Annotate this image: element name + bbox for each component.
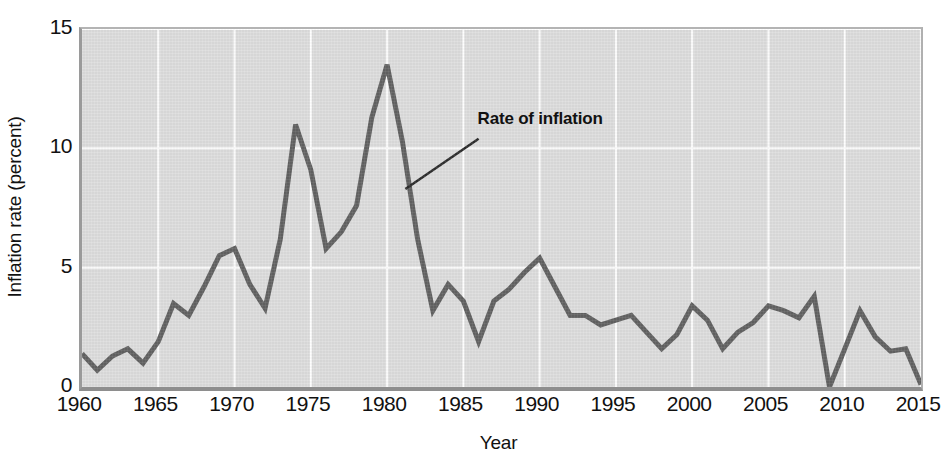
x-tick-label: 2010 — [802, 392, 882, 416]
x-tick-label: 1965 — [115, 392, 195, 416]
x-tick-label: 2015 — [878, 392, 949, 416]
plot-area — [79, 27, 923, 391]
x-axis-title: Year — [79, 432, 918, 454]
x-tick-label: 2000 — [649, 392, 729, 416]
x-tick-label: 1970 — [192, 392, 272, 416]
annotation-leader-line — [405, 139, 478, 189]
x-tick-label: 1980 — [344, 392, 424, 416]
y-tick-label: 10 — [30, 134, 72, 158]
inflation-rate-chart: 051015 Inflation rate (percent) 19601965… — [0, 0, 949, 464]
x-tick-label: 1995 — [573, 392, 653, 416]
x-tick-label: 1985 — [420, 392, 500, 416]
x-tick-label: 1960 — [39, 392, 119, 416]
y-tick-label: 15 — [30, 15, 72, 39]
annotation-label: Rate of inflation — [478, 109, 603, 129]
y-axis-title: Inflation rate (percent) — [2, 2, 28, 412]
y-tick-label: 5 — [30, 254, 72, 278]
gridlines — [82, 29, 921, 387]
x-tick-label: 1990 — [497, 392, 577, 416]
x-tick-label: 2005 — [725, 392, 805, 416]
x-tick-label: 1975 — [268, 392, 348, 416]
plot-svg — [82, 29, 921, 387]
